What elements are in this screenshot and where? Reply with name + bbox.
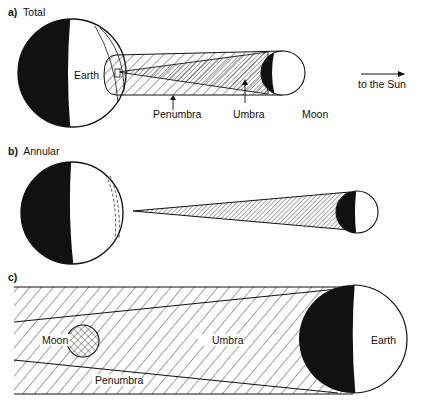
moon-c [67,325,99,357]
panel-a-total: a) Total [0,0,406,146]
label-moon-c: Moon [42,334,68,346]
eclipse-diagram: a) Total [0,0,421,407]
panel-a-heading: a) Total [8,6,45,18]
panel-c-heading: c) [8,271,17,283]
panel-b-annular: b) Annular [0,145,378,270]
sun-direction-arrow [361,71,405,77]
penumbra-a [104,51,283,95]
label-umbra-a: Umbra [233,108,265,120]
panel-b-heading: b) Annular [8,145,60,157]
label-penumbra-a: Penumbra [153,108,202,120]
umbra-cone-b [133,192,350,230]
label-moon-a: Moon [302,108,328,120]
earth-b [0,150,123,270]
label-umbra-c: Umbra [212,334,244,346]
label-penumbra-c: Penumbra [95,374,144,386]
panel-c: c) Moon Umbra Earth P [8,271,407,400]
label-earth-c: Earth [371,334,396,346]
label-earth-a: Earth [74,69,99,81]
label-to-the-sun: to the Sun [358,78,406,90]
